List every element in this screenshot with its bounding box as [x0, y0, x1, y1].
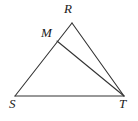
vertex-label-m: M — [41, 26, 52, 39]
figure-background — [0, 0, 138, 121]
vertex-label-r: R — [64, 2, 72, 15]
vertex-label-s: S — [9, 97, 16, 110]
geometry-figure: R M S T — [0, 0, 138, 121]
geometry-canvas — [0, 0, 138, 121]
vertex-label-t: T — [119, 97, 126, 110]
